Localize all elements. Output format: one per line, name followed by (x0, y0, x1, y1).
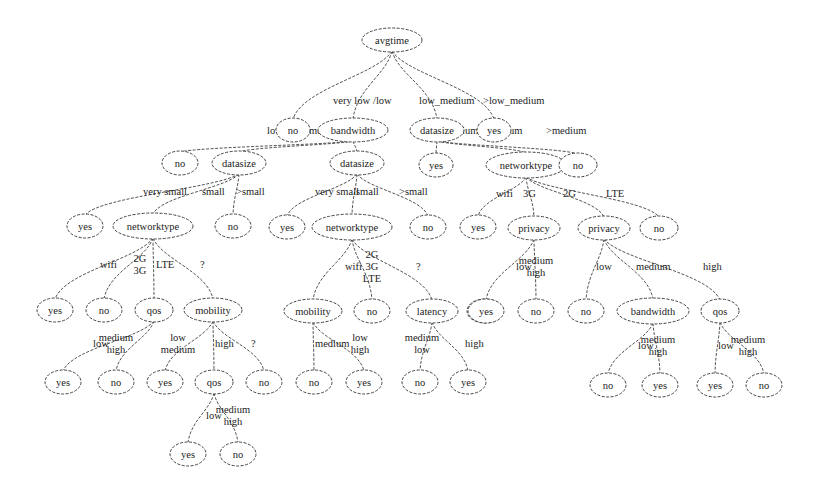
leaf-node-no: no (559, 153, 597, 177)
tree-edge (392, 51, 437, 119)
leaf-node-yes: yes (419, 153, 453, 177)
leaf-node-yes: yes (697, 373, 733, 397)
node-label: bandwidth (331, 125, 376, 136)
decision-node-bandwidth: bandwidth (617, 298, 689, 324)
edge-label: small (202, 186, 225, 197)
tree-edge (432, 322, 468, 371)
leaf-node-yes: yes (460, 215, 496, 239)
leaf-node-yes: yes (45, 370, 81, 394)
node-label: no (99, 305, 110, 316)
edge-label: medium (315, 338, 349, 349)
node-label: yes (487, 125, 501, 136)
edge-label: low_medium (419, 95, 474, 106)
tree-edge (293, 51, 392, 119)
node-label: no (309, 377, 320, 388)
node-label: yes (181, 449, 195, 460)
tree-edge (353, 141, 357, 152)
node-label: yes (471, 222, 485, 233)
edge-label: very small (143, 186, 187, 197)
edge-label: wifi (100, 259, 117, 270)
leaf-node-yes: yes (147, 370, 183, 394)
node-label: no (288, 125, 299, 136)
leaf-node-no: no (220, 442, 256, 466)
leaf-node-yes: yes (67, 214, 103, 238)
node-label: no (654, 223, 665, 234)
leaf-node-yes: yes (450, 370, 486, 394)
node-label: yes (479, 306, 493, 317)
node-label: datasize (420, 125, 454, 136)
node-label: yes (653, 380, 667, 391)
node-label: qos (147, 305, 162, 316)
node-label: no (531, 306, 542, 317)
leaf-node-no: no (590, 373, 626, 397)
node-label: yes (56, 377, 70, 388)
decision-node-mobility: mobility (284, 299, 342, 323)
node-label: avgtime (375, 35, 409, 46)
node-label: privacy (518, 223, 550, 234)
decision-tree-diagram: very low/lowlow_medium>low_mediumlowmedi… (0, 0, 815, 497)
node-label: mobility (295, 306, 331, 317)
leaf-node-no: no (640, 216, 678, 240)
leaf-node-no: no (296, 370, 332, 394)
node-label: yes (158, 377, 172, 388)
node-label: no (367, 306, 378, 317)
edge-label: >medium (546, 125, 586, 136)
edge-label: >low_medium (483, 95, 544, 106)
edge-label: mediumhigh (731, 334, 765, 357)
edge-label: 2G3G (134, 253, 147, 276)
node-label: no (233, 449, 244, 460)
node-label: datasize (222, 158, 256, 169)
node-label: no (759, 380, 770, 391)
edge-label: very small (315, 186, 359, 197)
node-label: bandwidth (631, 306, 676, 317)
leaf-node-no: no (98, 370, 134, 394)
edge-label: LTE (606, 188, 624, 199)
node-label: mobility (195, 305, 231, 316)
edge-label: lowhigh (351, 332, 370, 355)
leaf-node-yes: yes (468, 299, 504, 323)
edge-label: LTE (156, 259, 174, 270)
tree-edge (526, 177, 659, 217)
edge-label: high (215, 338, 234, 349)
edge-label: very low (333, 95, 370, 106)
edge-label: ? (200, 259, 205, 270)
tree-edge (437, 141, 578, 154)
decision-node-latency: latency (406, 299, 458, 323)
leaf-node-yes: yes (346, 370, 382, 394)
node-label: yes (357, 377, 371, 388)
node-label: yes (78, 221, 92, 232)
edge-label: 2G (563, 188, 576, 199)
leaf-node-no: no (410, 215, 446, 239)
node-label: no (175, 158, 186, 169)
tree-edge (353, 51, 392, 119)
decision-node-privacy: privacy (578, 216, 630, 240)
node-label: yes (708, 380, 722, 391)
edge-label: ? (251, 338, 256, 349)
leaf-node-no: no (215, 214, 251, 238)
edge-label: medium (636, 261, 670, 272)
node-label: no (259, 377, 270, 388)
nodes-layer: avgtimenobandwidthdatasizeyesnodatasized… (37, 28, 782, 466)
leaf-node-yes: yes (477, 118, 511, 142)
decision-node-networktype: networktype (312, 214, 392, 240)
edge-label: /low (373, 95, 392, 106)
leaf-node-no: no (746, 373, 782, 397)
node-label: no (228, 221, 239, 232)
leaf-node-no: no (354, 299, 390, 323)
tree-edge (436, 141, 437, 154)
edge-label: high (703, 261, 722, 272)
decision-node-datasize: datasize (212, 151, 266, 175)
decision-node-qos: qos (701, 299, 739, 323)
node-label: yes (429, 160, 443, 171)
decision-node-qos: qos (195, 370, 233, 394)
tree-svg: very low/lowlow_medium>low_mediumlowmedi… (0, 0, 815, 497)
node-label: no (573, 160, 584, 171)
tree-edge (180, 141, 353, 152)
tree-edge (153, 238, 154, 299)
node-label: no (581, 306, 592, 317)
leaf-node-yes: yes (642, 373, 678, 397)
leaf-node-yes: yes (170, 442, 206, 466)
leaf-node-no: no (162, 151, 198, 175)
node-label: networktype (326, 222, 379, 233)
edge-label: >small (236, 186, 265, 197)
